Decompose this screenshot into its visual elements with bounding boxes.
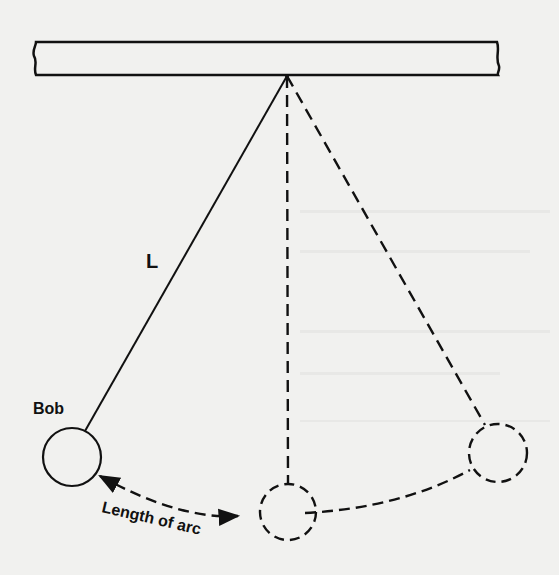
- label-length-of-arc: Length of arc: [100, 498, 203, 537]
- pendulum-diagram: L Bob Length of arc: [0, 0, 559, 575]
- arc-right-dashed: [305, 470, 470, 513]
- string-rest-dashed: [287, 76, 288, 484]
- label-bob: Bob: [33, 400, 64, 417]
- string-solid: [85, 76, 287, 431]
- bob-right-dashed: [469, 424, 527, 482]
- support-beam: [33, 42, 499, 75]
- bob-left-solid: [43, 428, 101, 486]
- bleed-through-texture: [300, 210, 550, 422]
- label-string-length: L: [146, 250, 158, 272]
